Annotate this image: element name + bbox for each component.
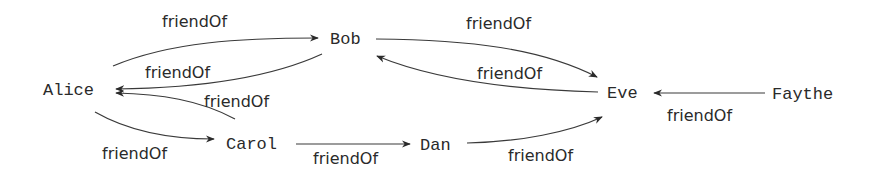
edge-label-bob-alice: friendOf	[145, 63, 210, 82]
node-alice: Alice	[43, 81, 94, 100]
edge-labels: friendOf friendOf friendOf friendOf frie…	[102, 12, 732, 168]
edge-label-bob-eve: friendOf	[466, 14, 531, 33]
node-eve: Eve	[607, 84, 638, 103]
edge-label-dan-eve: friendOf	[508, 146, 573, 165]
edge-label-alice-bob: friendOf	[162, 12, 227, 31]
edge-alice-carol	[95, 112, 214, 139]
edge-label-carol-alice: friendOf	[204, 92, 269, 111]
edge-label-faythe-eve: friendOf	[667, 106, 732, 125]
edge-label-alice-carol: friendOf	[102, 144, 167, 163]
edge-dan-eve	[467, 117, 602, 143]
edge-label-carol-dan: friendOf	[313, 149, 378, 168]
node-bob: Bob	[330, 30, 361, 49]
edge-alice-bob	[113, 38, 318, 66]
friend-graph: friendOf friendOf friendOf friendOf frie…	[0, 0, 885, 189]
node-faythe: Faythe	[772, 85, 833, 104]
edge-label-eve-bob: friendOf	[477, 64, 542, 83]
edges	[95, 38, 765, 144]
node-dan: Dan	[420, 136, 451, 155]
node-carol: Carol	[226, 135, 277, 154]
